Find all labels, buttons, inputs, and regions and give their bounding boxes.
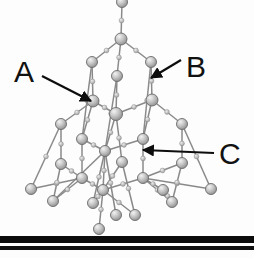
bond-midpoint-node <box>102 105 107 110</box>
label-a: A <box>14 57 34 87</box>
bond-midpoint-node <box>65 187 70 192</box>
atom-sphere <box>117 0 128 8</box>
bond-midpoint-node <box>126 186 131 191</box>
bond-midpoint-node <box>141 156 146 161</box>
crystal-lattice-svg <box>0 0 254 258</box>
bond-midpoint-node <box>180 141 185 146</box>
atom-sphere <box>56 159 67 170</box>
bond-midpoint-node <box>114 93 119 98</box>
atom-sphere <box>111 210 122 221</box>
atom-sphere <box>177 158 188 169</box>
atom-sphere <box>98 185 109 196</box>
bond-midpoint-node <box>55 180 60 185</box>
bond-midpoint-node <box>90 182 95 187</box>
atom-sphere <box>112 71 123 82</box>
bond-midpoint-node <box>165 110 170 115</box>
atom-sphere <box>26 184 37 195</box>
bond-midpoint-node <box>110 174 115 179</box>
bond-midpoint-node <box>134 48 139 53</box>
annotation-arrow-c <box>143 150 214 153</box>
atom-sphere <box>100 146 111 157</box>
atom-sphere <box>94 224 105 235</box>
bond-midpoint-node <box>104 48 109 53</box>
bond-midpoint-node <box>194 154 199 159</box>
atom-sphere <box>138 173 149 184</box>
bond-midpoint-node <box>151 182 156 187</box>
atom-sphere <box>110 108 123 121</box>
bond-midpoint-node <box>102 168 107 173</box>
atom-sphere <box>77 134 88 145</box>
bond-midpoint-node <box>90 79 95 84</box>
bond-midpoint-node <box>160 168 165 173</box>
figure-canvas: A B C <box>0 0 254 258</box>
bond-midpoint-node <box>97 175 102 180</box>
atom-sphere <box>117 157 128 168</box>
atom-sphere <box>146 94 158 106</box>
bond-midpoint-node <box>108 181 113 186</box>
substrate-layer <box>0 236 254 250</box>
bond-midpoint-node <box>119 18 124 23</box>
label-b: B <box>186 52 206 82</box>
atom-sphere <box>206 184 217 195</box>
bond-midpoint-node <box>75 110 80 115</box>
bond-midpoint-node <box>121 182 126 187</box>
bond-midpoint-node <box>175 180 180 185</box>
bond-midpoint-node <box>132 105 137 110</box>
bond-midpoint-node <box>69 169 74 174</box>
bond-midpoint-node <box>59 142 64 147</box>
annotation-arrow-a <box>42 76 91 101</box>
atom-sphere <box>177 119 188 130</box>
bond-midpoint-node <box>149 79 154 84</box>
bond-midpoint-node <box>117 55 122 60</box>
atom-sphere <box>88 198 99 209</box>
atom-sphere <box>77 173 88 184</box>
bond-midpoint-node <box>80 156 85 161</box>
label-c: C <box>219 139 241 169</box>
atom-sphere <box>56 119 67 130</box>
bond-midpoint-node <box>117 200 122 205</box>
substrate-bar <box>0 246 254 250</box>
bond-midpoint-node <box>108 130 113 135</box>
bond-midpoint-node <box>117 136 122 141</box>
atom-sphere <box>48 196 59 207</box>
atom-sphere <box>158 185 169 196</box>
substrate-bar <box>0 236 254 243</box>
bond-midpoint-node <box>85 118 90 123</box>
atom-sphere <box>138 134 149 145</box>
bond-midpoint-node <box>91 143 96 148</box>
bond-midpoint-node <box>122 143 127 148</box>
atom-sphere <box>167 197 178 208</box>
bond-midpoint-node <box>145 117 150 122</box>
atom-layer <box>26 0 217 235</box>
atom-sphere <box>87 57 98 68</box>
bond-midpoint-node <box>99 207 104 212</box>
atom-sphere <box>146 57 157 68</box>
atom-sphere <box>115 33 127 45</box>
bond-midpoint-node <box>44 154 49 159</box>
atom-sphere <box>130 210 141 221</box>
